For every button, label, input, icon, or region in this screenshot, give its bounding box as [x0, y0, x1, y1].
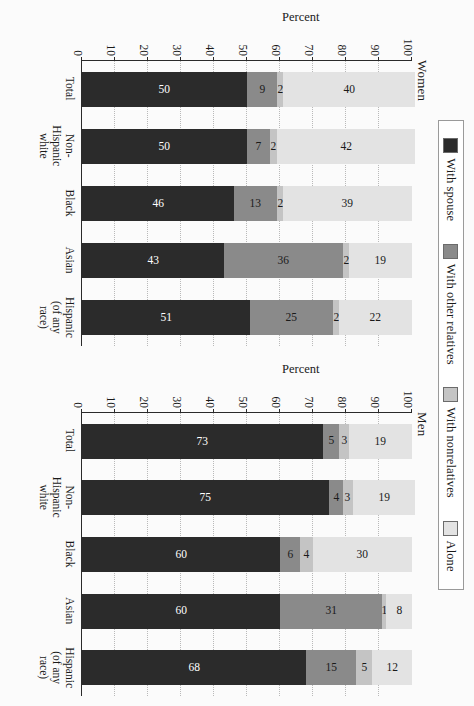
bar-segment-nonrel[interactable]: 2 [277, 186, 284, 221]
bar-value-label: 25 [286, 312, 298, 324]
stacked-bar[interactable]: 606430 [82, 537, 412, 572]
bar-value-label: 51 [160, 312, 172, 324]
stacked-bar[interactable]: 6815512 [82, 650, 412, 685]
panels-container: Men0102030405060708090100735319754319606… [8, 0, 432, 706]
bar-value-label: 8 [396, 605, 402, 617]
stacked-bar[interactable]: 5125222 [82, 300, 412, 335]
bar-segment-relatives[interactable]: 9 [247, 72, 277, 107]
bar-value-label: 2 [343, 255, 349, 267]
category-label-line1: Hispanic [64, 297, 76, 338]
bar-segment-relatives[interactable]: 15 [306, 650, 356, 685]
stacked-bar[interactable]: 4336219 [82, 243, 412, 278]
bar-value-label: 42 [340, 141, 352, 153]
bar-segment-nonrel[interactable]: 4 [300, 537, 313, 572]
axis-tick-label: 80 [336, 397, 348, 409]
bar-segment-alone[interactable]: 19 [349, 424, 412, 459]
stacked-bar[interactable]: 754319 [82, 480, 415, 515]
axis-tick-label: 10 [105, 397, 117, 409]
stacked-bar[interactable]: 4613239 [82, 186, 412, 221]
bar-value-label: 50 [159, 84, 171, 96]
bar-segment-spouse[interactable]: 60 [82, 594, 280, 629]
bar-segment-alone[interactable]: 40 [283, 72, 415, 107]
axis-tick-label: 40 [204, 45, 216, 57]
bar-segment-nonrel[interactable]: 2 [277, 72, 284, 107]
category-label-line1: Asian [64, 247, 76, 274]
category-label-line1: Black [64, 541, 76, 568]
bar-segment-relatives[interactable]: 25 [250, 300, 333, 335]
bar-value-label: 75 [200, 492, 212, 504]
legend-swatch-nonrel [444, 387, 459, 402]
bar-value-label: 9 [259, 84, 265, 96]
plot-area-women: 0102030405060708090100509240507242461323… [82, 60, 412, 346]
bar-segment-spouse[interactable]: 60 [82, 537, 280, 572]
bar-segment-nonrel[interactable]: 2 [343, 243, 350, 278]
axis-title-percent: Percent [282, 10, 319, 25]
bar-segment-alone[interactable]: 30 [313, 537, 412, 572]
axis-tick-label: 20 [138, 45, 150, 57]
bar-value-label: 2 [333, 312, 339, 324]
bar-value-label: 39 [342, 198, 354, 210]
panel-title-men: Men [414, 412, 430, 436]
bar-segment-relatives[interactable]: 7 [247, 129, 270, 164]
axis-tick-label: 100 [402, 391, 414, 408]
bar-segment-relatives[interactable]: 4 [330, 480, 343, 515]
bar-segment-spouse[interactable]: 51 [82, 300, 250, 335]
legend-label-alone: Alone [444, 541, 459, 572]
category-label: Hispanic(of any race) [37, 289, 76, 346]
bar-segment-alone[interactable]: 22 [339, 300, 412, 335]
bar-segment-spouse[interactable]: 43 [82, 243, 224, 278]
bar-segment-spouse[interactable]: 73 [82, 424, 323, 459]
stacked-bar[interactable]: 507242 [82, 129, 415, 164]
axis-tick-label: 30 [171, 397, 183, 409]
bar-value-label: 30 [357, 549, 369, 561]
bar-segment-spouse[interactable]: 68 [82, 650, 306, 685]
bar-value-label: 19 [378, 492, 390, 504]
stacked-bar[interactable]: 603118 [82, 594, 412, 629]
category-label: Asian [63, 232, 76, 289]
category-label-line1: Non-Hispanic [51, 477, 76, 518]
stacked-bar[interactable]: 735319 [82, 424, 412, 459]
axis-tick-label: 60 [270, 397, 282, 409]
legend-swatch-alone [444, 521, 459, 536]
category-label-line2: (of any race) [37, 639, 63, 696]
bar-segment-relatives[interactable]: 13 [234, 186, 277, 221]
legend-swatch-spouse [444, 138, 459, 153]
bar-value-label: 4 [304, 549, 310, 561]
bar-segment-nonrel[interactable]: 5 [356, 650, 373, 685]
bar-segment-relatives[interactable]: 5 [323, 424, 340, 459]
bar-segment-spouse[interactable]: 46 [82, 186, 234, 221]
category-label: Non-Hispanicwhite [37, 117, 76, 174]
bar-segment-alone[interactable]: 8 [386, 594, 412, 629]
bar-value-label: 46 [152, 198, 164, 210]
bar-value-label: 43 [147, 255, 159, 267]
bar-value-label: 31 [325, 605, 337, 617]
bar-segment-nonrel[interactable]: 2 [333, 300, 340, 335]
bar-column: 603118 [82, 594, 412, 629]
bar-segment-alone[interactable]: 39 [283, 186, 412, 221]
bar-segment-spouse[interactable]: 50 [82, 72, 247, 107]
bar-segment-nonrel[interactable]: 2 [270, 129, 277, 164]
bars-group: 509240507242461323943362195125222 [82, 61, 412, 346]
bar-segment-alone[interactable]: 12 [372, 650, 412, 685]
stacked-bar[interactable]: 509240 [82, 72, 415, 107]
bar-segment-alone[interactable]: 19 [349, 243, 412, 278]
bar-segment-alone[interactable]: 19 [353, 480, 416, 515]
bar-value-label: 40 [344, 84, 356, 96]
bar-value-label: 5 [361, 662, 367, 674]
bar-segment-relatives[interactable]: 36 [224, 243, 343, 278]
category-label: Hispanic(of any race) [37, 639, 76, 696]
legend: With spouseWith other relativesWith nonr… [438, 120, 464, 590]
bar-value-label: 5 [328, 436, 334, 448]
bar-segment-relatives[interactable]: 6 [280, 537, 300, 572]
bar-segment-alone[interactable]: 42 [277, 129, 416, 164]
bar-segment-spouse[interactable]: 50 [82, 129, 247, 164]
bar-segment-spouse[interactable]: 75 [82, 480, 330, 515]
bar-segment-nonrel[interactable]: 3 [343, 480, 353, 515]
axis-tick-label: 0 [72, 402, 84, 408]
category-label-line2: (of any race) [37, 289, 63, 346]
bar-segment-nonrel[interactable]: 3 [339, 424, 349, 459]
panel-title-women: Women [414, 60, 430, 101]
bar-value-label: 50 [159, 141, 171, 153]
bar-segment-relatives[interactable]: 31 [280, 594, 382, 629]
category-label: Black [63, 174, 76, 231]
